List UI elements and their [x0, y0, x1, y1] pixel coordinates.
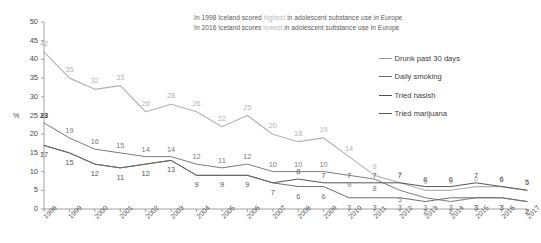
data-label: 7 [398, 170, 402, 179]
data-label: 6 [322, 191, 326, 200]
data-label: 33 [116, 72, 124, 81]
data-label: 2 [423, 206, 427, 215]
data-label: 6 [449, 174, 453, 183]
annotation-line-1: In 1998 Iceland scored highest in adoles… [194, 13, 494, 23]
data-label: 12 [91, 169, 99, 178]
data-label: 7 [322, 170, 326, 179]
annotation-line-2-post: in adolescent substance use in Europe [282, 24, 399, 31]
data-label: 6 [423, 174, 427, 183]
annotation-line-1-pre: In 1998 Iceland scored [194, 14, 264, 21]
annotation-line-2-pre: In 2016 Iceland scores [194, 24, 263, 31]
data-label: 10 [269, 159, 277, 168]
data-label: 7 [474, 170, 478, 179]
y-axis-tick-label: 0 [16, 204, 38, 213]
annotation-line-2: In 2016 Iceland scores lowest in adolesc… [194, 23, 494, 33]
data-label: 28 [167, 91, 175, 100]
y-axis-unit: % [13, 111, 19, 120]
data-label: 6 [500, 174, 504, 183]
y-axis-tick-label: 40 [16, 54, 38, 63]
annotation-line-1-post: in adolescent substance use in Europe [285, 14, 402, 21]
data-label: 7 [372, 170, 376, 179]
data-label: 2 [525, 206, 529, 215]
data-label: 14 [345, 143, 353, 152]
data-label: 9 [194, 180, 198, 189]
legend-label: Drunk past 30 days [395, 54, 460, 63]
data-label: 5 [525, 178, 529, 187]
legend-label: Tried marijuana [395, 109, 447, 118]
legend-swatch-icon [379, 58, 392, 59]
legend-item-tried-marijuana: Tried marijuana [379, 105, 529, 124]
legend-item-daily-smoking: Daily smoking [379, 68, 529, 87]
data-label: 12 [243, 152, 251, 161]
data-label: 12 [192, 152, 200, 161]
data-label: 42 [40, 38, 48, 47]
data-label: 20 [269, 121, 277, 130]
legend-label: Tried hasish [395, 91, 436, 100]
data-label: 15 [65, 157, 73, 166]
data-label: 14 [142, 144, 150, 153]
data-label: 8 [296, 167, 300, 176]
legend-swatch-icon [379, 76, 392, 77]
data-label: 16 [91, 137, 99, 146]
y-axis-tick-label: 10 [16, 167, 38, 176]
y-axis-tick-label: 30 [16, 92, 38, 101]
chart-legend: Drunk past 30 days Daily smoking Tried h… [379, 49, 529, 123]
legend-swatch-icon [379, 113, 392, 114]
data-label: 8 [372, 184, 376, 193]
data-label: 3 [500, 202, 504, 211]
data-label: 35 [65, 65, 73, 74]
data-label: 3 [474, 202, 478, 211]
data-label: 6 [296, 191, 300, 200]
data-label: 23 [40, 110, 48, 119]
y-axis-tick-label: 20 [16, 129, 38, 138]
data-label: 9 [347, 180, 351, 189]
chart-annotation: In 1998 Iceland scored highest in adoles… [194, 13, 494, 32]
legend-label: Daily smoking [395, 72, 442, 81]
annotation-line-2-emphasis: lowest [263, 24, 282, 31]
legend-item-tried-hasish: Tried hasish [379, 86, 529, 105]
data-label: 10 [320, 159, 328, 168]
data-label: 11 [218, 155, 226, 164]
y-axis-tick-label: 45 [16, 36, 38, 45]
data-label: 9 [245, 180, 249, 189]
data-label: 12 [142, 169, 150, 178]
legend-item-drunk-past-30-days: Drunk past 30 days [379, 49, 529, 68]
data-label: 25 [243, 102, 251, 111]
data-label: 3 [347, 202, 351, 211]
data-label: 7 [347, 170, 351, 179]
data-label: 3 [398, 202, 402, 211]
y-axis-tick-label: 35 [16, 73, 38, 82]
data-label: 13 [167, 165, 175, 174]
data-label: 19 [320, 124, 328, 133]
data-label: 15 [116, 140, 124, 149]
data-label: 18 [294, 128, 302, 137]
data-label: 32 [91, 76, 99, 85]
y-axis-tick-label: 50 [16, 17, 38, 26]
y-axis-tick-label: 5 [16, 185, 38, 194]
data-label: 11 [116, 172, 124, 181]
data-label: 14 [167, 144, 175, 153]
y-axis-tick-label: 15 [16, 148, 38, 157]
data-label: 7 [271, 187, 275, 196]
data-label: 3 [372, 202, 376, 211]
data-label: 17 [40, 150, 48, 159]
data-label: 26 [142, 98, 150, 107]
data-label: 9 [220, 180, 224, 189]
data-label: 26 [192, 98, 200, 107]
data-label: 3 [449, 202, 453, 211]
data-label: 22 [218, 113, 226, 122]
data-label: 19 [65, 125, 73, 134]
annotation-line-1-emphasis: highest [264, 14, 286, 21]
legend-swatch-icon [379, 95, 392, 96]
